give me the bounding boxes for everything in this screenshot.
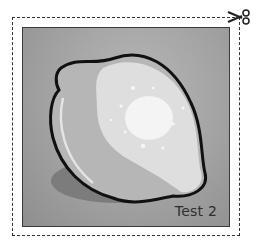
card-label: Test 2 <box>175 203 217 219</box>
lemon-illustration <box>23 28 230 227</box>
lemon-highlight <box>125 96 173 140</box>
illustration-card: Test 2 <box>22 27 230 227</box>
scissors-icon <box>226 8 252 26</box>
